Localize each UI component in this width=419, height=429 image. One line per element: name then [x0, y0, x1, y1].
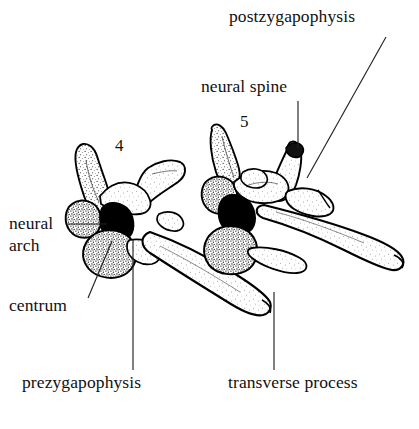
label-transverse-process: transverse process — [228, 372, 358, 392]
leader-postzygapophysis — [307, 37, 386, 178]
label-centrum: centrum — [9, 295, 67, 315]
specimen-number-4: 4 — [115, 136, 124, 156]
label-postzygapophysis: postzygapophysis — [229, 6, 355, 26]
vertebra-5-drawing — [202, 124, 404, 274]
specimen-number-5: 5 — [240, 112, 249, 132]
label-neural-arch-line2: arch — [9, 235, 40, 255]
vertebrae-illustration — [0, 0, 419, 429]
label-neural-arch-line1: neural — [9, 213, 53, 233]
anatomical-figure: postzygapophysis neural spine neural arc… — [0, 0, 419, 429]
label-prezygapophysis: prezygapophysis — [22, 372, 141, 392]
label-neural-spine: neural spine — [201, 76, 287, 96]
